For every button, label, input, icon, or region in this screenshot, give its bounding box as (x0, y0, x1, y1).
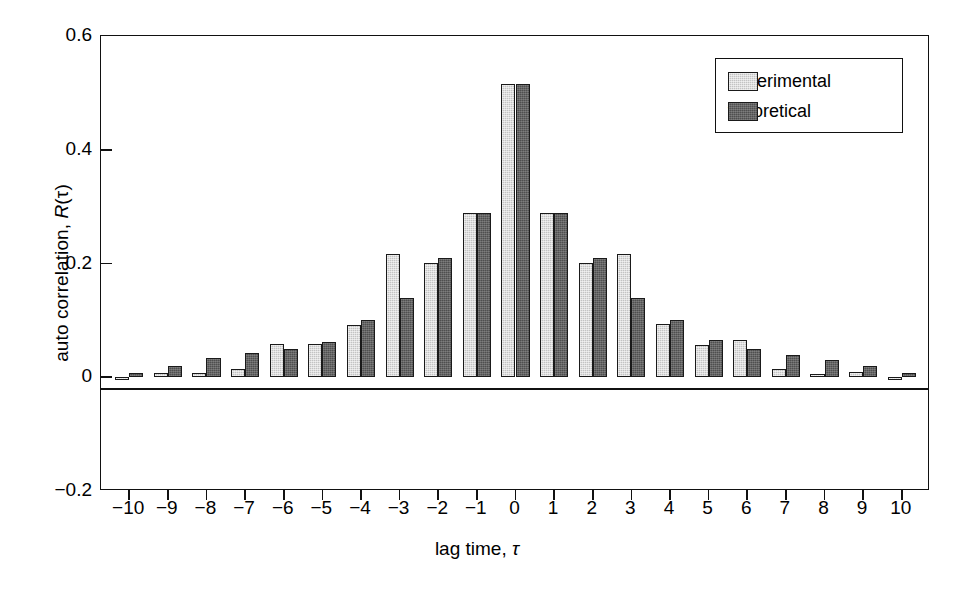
bar-theoretical--4 (361, 320, 375, 377)
bar-experimental-0 (501, 84, 515, 377)
bar-theoretical-2 (593, 258, 607, 377)
x-tick-label-1: 1 (531, 498, 575, 518)
x-tick-label--10: −10 (106, 498, 150, 518)
bar-experimental-5 (695, 345, 709, 377)
bar-experimental-1 (540, 213, 554, 377)
bar-theoretical-1 (554, 213, 568, 377)
bar-experimental-2 (579, 263, 593, 377)
y-tick-label-0: 0 (22, 366, 92, 385)
x-tick-label--4: −4 (338, 498, 382, 518)
x-tick-label-8: 8 (802, 498, 846, 518)
x-tick-label--1: −1 (454, 498, 498, 518)
bar-experimental--1 (463, 213, 477, 377)
x-tick-label--7: −7 (222, 498, 266, 518)
bar-experimental-7 (772, 369, 786, 377)
x-axis-title-symbol: τ (512, 538, 519, 559)
bar-theoretical-9 (863, 366, 877, 377)
x-tick-label-6: 6 (724, 498, 768, 518)
bar-experimental-3 (617, 254, 631, 377)
legend: experimental theoretical (715, 58, 903, 133)
legend-swatch-theoretical-icon (728, 102, 758, 121)
x-axis-title-text: lag time, (435, 538, 512, 559)
x-tick-label-2: 2 (570, 498, 614, 518)
bar-theoretical-8 (825, 360, 839, 378)
bar-experimental--4 (347, 325, 361, 377)
bar-theoretical--3 (400, 298, 414, 377)
x-tick-label--9: −9 (145, 498, 189, 518)
bar-theoretical-0 (516, 84, 530, 377)
x-tick-label-9: 9 (840, 498, 884, 518)
y-axis-tick-labels: 0.60.40.20−0.2 (18, 0, 92, 593)
x-tick-label-10: 10 (879, 498, 923, 518)
legend-item-experimental: experimental (728, 66, 902, 96)
bar-experimental-8 (810, 374, 824, 377)
bar-theoretical-4 (670, 320, 684, 377)
bar-theoretical--8 (206, 358, 220, 377)
bar-theoretical-10 (902, 373, 916, 377)
y-tick-label-neg0_2: −0.2 (22, 480, 92, 499)
bar-experimental-9 (849, 372, 863, 377)
y-tick-label-0_4: 0.4 (22, 139, 92, 158)
x-tick-label--5: −5 (299, 498, 343, 518)
y-tick-label-0_2: 0.2 (22, 253, 92, 272)
bar-theoretical-5 (709, 340, 723, 378)
y-tick-label-0_6: 0.6 (22, 25, 92, 44)
bar-theoretical--6 (284, 349, 298, 377)
legend-swatch-experimental-icon (728, 72, 758, 91)
x-tick-label--8: −8 (183, 498, 227, 518)
x-axis-title: lag time, τ (0, 538, 954, 560)
x-tick-label--3: −3 (377, 498, 421, 518)
bar-theoretical--5 (322, 342, 336, 377)
x-tick-label-3: 3 (608, 498, 652, 518)
x-tick-label-0: 0 (493, 498, 537, 518)
x-tick-label-5: 5 (686, 498, 730, 518)
autocorrelation-bar-chart: auto correlation, R(τ) 0.60.40.20−0.2 −1… (0, 0, 954, 593)
bar-theoretical--9 (168, 366, 182, 377)
bar-theoretical--1 (477, 213, 491, 377)
bar-theoretical-6 (747, 349, 761, 377)
bar-experimental--3 (386, 254, 400, 377)
bar-experimental--10 (115, 377, 129, 380)
bar-experimental-4 (656, 324, 670, 377)
x-tick-label-7: 7 (763, 498, 807, 518)
bar-theoretical-7 (786, 355, 800, 378)
bar-experimental--8 (192, 373, 206, 377)
bar-experimental--7 (231, 369, 245, 378)
x-tick-label-4: 4 (647, 498, 691, 518)
x-tick-label--6: −6 (261, 498, 305, 518)
bar-theoretical--2 (438, 258, 452, 377)
bar-experimental--6 (270, 344, 284, 377)
bar-experimental--2 (424, 263, 438, 377)
x-tick-label--2: −2 (415, 498, 459, 518)
bar-experimental--9 (154, 373, 168, 378)
bar-experimental--5 (308, 344, 322, 377)
bar-theoretical--7 (245, 353, 259, 377)
bar-theoretical-3 (631, 298, 645, 377)
bar-experimental-6 (733, 340, 747, 378)
legend-item-theoretical: theoretical (728, 96, 902, 126)
bar-theoretical--10 (129, 373, 143, 377)
bar-experimental-10 (888, 377, 902, 380)
